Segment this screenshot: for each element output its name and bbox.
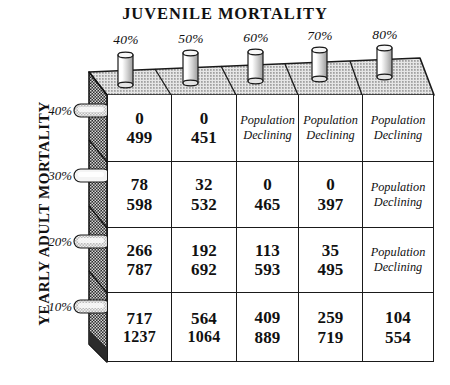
cylinder-marker-40 (118, 52, 133, 88)
chart-title: JUVENILE MORTALITY (0, 4, 450, 24)
cell-top-value: 0 (263, 175, 272, 194)
cell-bottom-value: 1237 (123, 328, 156, 346)
cell-top-value: 104 (385, 308, 411, 327)
column-label-3: 60% (233, 30, 279, 46)
row-label-3: 20% (30, 234, 72, 250)
data-cell: 0451 (172, 95, 237, 162)
data-cell: 259719 (299, 293, 363, 362)
column-label-4: 70% (297, 28, 343, 44)
cell-bottom-value: 397 (317, 195, 343, 214)
data-cell: 5641064 (172, 293, 237, 362)
cell-bottom-value: 787 (126, 260, 152, 279)
data-cell: 192692 (172, 228, 237, 293)
cell-bottom-value: 593 (254, 260, 280, 279)
top-surface (89, 58, 434, 95)
data-cell: 409889 (237, 293, 299, 362)
cell-top-value: 564 (191, 309, 217, 328)
data-cell: 0397 (299, 162, 363, 228)
cell-top-value: 0 (135, 109, 144, 128)
cell-bottom-value: 692 (191, 260, 217, 279)
cylinder-marker-70 (312, 47, 327, 82)
cell-bottom-value: 451 (191, 128, 217, 147)
cell-bottom-value: 532 (191, 195, 217, 214)
data-cell: 104554 (363, 293, 433, 362)
cell-bottom-value: 554 (385, 328, 411, 347)
column-marker-cylinders (118, 45, 392, 88)
data-cell: 7171237 (108, 293, 172, 362)
population-declining-label: PopulationDeclining (371, 180, 426, 210)
data-grid: 04990451PopulationDecliningPopulationDec… (107, 95, 434, 362)
cell-top-value: 0 (200, 109, 209, 128)
cell-bottom-value: 495 (317, 260, 343, 279)
data-cell: PopulationDeclining (363, 228, 433, 293)
cell-top-value: 78 (131, 175, 148, 194)
data-cell: 78598 (108, 162, 172, 228)
column-label-2: 50% (168, 31, 214, 47)
cell-top-value: 0 (326, 175, 335, 194)
population-declining-label: PopulationDeclining (371, 113, 426, 143)
cell-bottom-value: 719 (317, 328, 343, 347)
data-cell: PopulationDeclining (299, 95, 363, 162)
column-label-5: 80% (362, 27, 408, 43)
cell-top-value: 717 (126, 309, 152, 328)
cell-top-value: 35 (322, 241, 339, 260)
data-cell: 0465 (237, 162, 299, 228)
row-label-4: 10% (30, 299, 72, 315)
left-side-panel (89, 72, 107, 362)
column-label-1: 40% (103, 32, 149, 48)
pill-marker-40 (74, 104, 110, 117)
pill-marker-20 (74, 235, 110, 248)
data-cell: PopulationDeclining (363, 162, 433, 228)
row-marker-pills (74, 104, 110, 313)
cell-bottom-value: 889 (254, 328, 280, 347)
cell-top-value: 192 (191, 241, 217, 260)
cylinder-marker-80 (377, 45, 392, 80)
cell-bottom-value: 598 (126, 195, 152, 214)
cylinder-marker-60 (248, 49, 263, 84)
cell-top-value: 259 (317, 308, 343, 327)
population-declining-label: PopulationDeclining (303, 113, 358, 143)
pill-marker-30 (74, 169, 110, 182)
population-declining-label: PopulationDeclining (240, 113, 295, 143)
cell-bottom-value: 499 (126, 128, 152, 147)
cell-bottom-value: 465 (254, 195, 280, 214)
row-label-2: 30% (30, 168, 72, 184)
data-cell: PopulationDeclining (237, 95, 299, 162)
data-cell: 0499 (108, 95, 172, 162)
pill-marker-10 (74, 300, 110, 313)
cell-top-value: 409 (254, 308, 280, 327)
cylinder-marker-50 (183, 50, 198, 86)
data-cell: 32532 (172, 162, 237, 228)
cell-top-value: 266 (126, 241, 152, 260)
data-cell: 266787 (108, 228, 172, 293)
population-declining-label: PopulationDeclining (371, 245, 426, 275)
row-label-1: 40% (30, 103, 72, 119)
cell-top-value: 32 (195, 175, 212, 194)
data-cell: PopulationDeclining (363, 95, 433, 162)
data-cell: 35495 (299, 228, 363, 293)
cell-bottom-value: 1064 (188, 328, 221, 346)
data-cell: 113593 (237, 228, 299, 293)
cell-top-value: 113 (255, 241, 280, 260)
